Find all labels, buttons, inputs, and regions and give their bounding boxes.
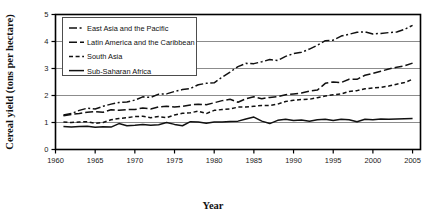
x-tick-label-1975: 1975 — [166, 156, 183, 165]
y-tick-label-1: 1 — [44, 118, 48, 127]
x-tick-label-1990: 1990 — [285, 156, 302, 165]
legend-label-2: South Asia — [87, 52, 123, 61]
x-tick-label-1965: 1965 — [87, 156, 104, 165]
y-axis-title: Cereal yield (tons per hectare) — [4, 14, 16, 150]
x-tick-label-1980: 1980 — [206, 156, 223, 165]
x-tick-label-1985: 1985 — [246, 156, 263, 165]
chart-canvas: 012345 196019651970197519801985199019952… — [0, 0, 436, 222]
legend-label-0: East Asia and the Pacific — [87, 24, 169, 33]
x-tick-label-1995: 1995 — [325, 156, 342, 165]
legend: East Asia and the PacificLatin America a… — [63, 18, 197, 76]
cereal-yield-line-chart: 012345 196019651970197519801985199019952… — [0, 0, 436, 222]
x-tick-label-1960: 1960 — [47, 156, 64, 165]
y-tick-label-3: 3 — [44, 64, 48, 73]
y-tick-label-4: 4 — [44, 37, 48, 46]
y-tick-label-0: 0 — [44, 145, 48, 154]
y-tick-label-2: 2 — [44, 91, 48, 100]
x-tick-label-2000: 2000 — [365, 156, 382, 165]
x-tick-label-2005: 2005 — [404, 156, 421, 165]
y-tick-label-5: 5 — [44, 10, 48, 19]
legend-label-3: Sub-Saharan Africa — [87, 67, 152, 76]
x-tick-label-1970: 1970 — [127, 156, 144, 165]
x-axis-title: Year — [203, 200, 224, 211]
legend-label-1: Latin America and the Caribbean — [87, 38, 195, 47]
